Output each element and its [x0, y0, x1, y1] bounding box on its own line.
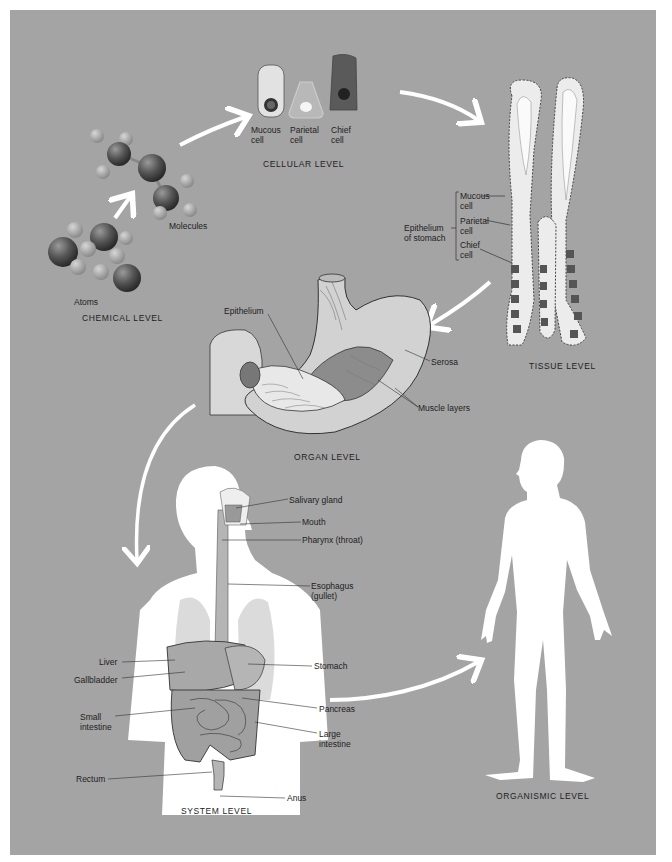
level-label-cellular: CELLULAR LEVEL [263, 159, 344, 169]
gallbladder-label: Gallbladder [74, 675, 117, 685]
salivary-gland-label: Salivary gland [289, 495, 342, 505]
rectum-label: Rectum [76, 774, 105, 784]
level-label-organ: ORGAN LEVEL [294, 452, 361, 462]
atoms-illustration [48, 222, 141, 292]
mucous-cell-label: Mucouscell [251, 125, 281, 145]
pancreas-label: Pancreas [319, 704, 355, 714]
level-label-organismic: ORGANISMIC LEVEL [496, 791, 589, 801]
cells-illustration [258, 54, 357, 118]
large-intestine-label: Largeintestine [319, 729, 351, 749]
human-body-silhouette [481, 440, 612, 782]
gastric-glands-illustration [507, 78, 586, 345]
epithelium-of-stomach-label: Epitheliumof stomach [404, 223, 446, 243]
small-intestine-label: Smallintestine [80, 712, 112, 732]
arrow-cellular-to-tissue [400, 92, 478, 120]
level-label-system: SYSTEM LEVEL [181, 806, 252, 816]
organ-epithelium-label: Epithelium [224, 306, 264, 316]
stomach-label: Stomach [314, 661, 348, 671]
atoms-label: Atoms [74, 297, 98, 307]
arrow-tissue-to-organ [430, 282, 490, 325]
tissue-chief-cell-label: Chiefcell [460, 240, 480, 260]
molecules-label: Molecules [169, 221, 207, 231]
parietal-cell-label: Parietalcell [290, 125, 319, 145]
arrow-chemical-to-cellular [180, 117, 245, 145]
serosa-label: Serosa [431, 357, 458, 367]
chief-cell-label: Chiefcell [331, 125, 351, 145]
esophagus-label: Esophagus(gullet) [311, 581, 354, 601]
liver-label: Liver [99, 657, 117, 667]
arrow-atoms-to-molecules [115, 197, 130, 218]
tissue-parietal-cell-label: Parietalcell [460, 216, 489, 236]
level-label-tissue: TISSUE LEVEL [529, 361, 596, 371]
arrow-system-to-organismic [330, 662, 478, 700]
tissue-mucous-cell-label: Mucouscell [460, 191, 490, 211]
anus-label: Anus [287, 793, 306, 803]
level-label-chemical: CHEMICAL LEVEL [82, 313, 163, 323]
muscle-layers-label: Muscle layers [418, 403, 470, 413]
mouth-label: Mouth [302, 517, 326, 527]
pharynx-label: Pharynx (throat) [302, 535, 363, 545]
human-torso-silhouette [128, 466, 328, 815]
stomach-illustration [210, 274, 431, 434]
